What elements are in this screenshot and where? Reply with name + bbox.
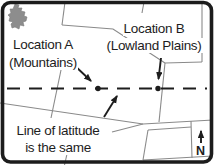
location-b-dot — [155, 86, 160, 91]
boundary-lower-diagonal — [112, 124, 143, 132]
north-label: N — [196, 144, 205, 158]
latitude-note-line1: Line of latitude — [15, 123, 100, 138]
location-a-line1: Location A — [12, 37, 74, 52]
boundary-right-horizontal — [165, 62, 202, 63]
location-b-line2: (Lowland Plains) — [106, 38, 203, 53]
lake-shape — [8, 4, 27, 29]
boundary-top-left-vertical — [62, 2, 65, 25]
boundary-lower-horizontal — [143, 120, 213, 124]
compass-box-divider — [191, 121, 192, 158]
latitude-note-label: Line of latitude is the same — [8, 122, 108, 156]
location-b-line1: Location B — [123, 21, 186, 36]
latitude-note-line2: is the same — [24, 140, 92, 155]
location-a-label: Location A (Mountains) — [1, 36, 85, 72]
latitude-note-arrow-icon — [104, 96, 117, 117]
location-a-dot — [95, 86, 100, 91]
small-state-left — [143, 130, 148, 160]
boundary-lower-curve — [0, 103, 143, 124]
location-a-line2: (Mountains) — [8, 55, 78, 70]
small-state-top — [148, 127, 191, 130]
diagram-canvas: Location A (Mountains) Location B (Lowla… — [0, 0, 214, 166]
location-b-label: Location B (Lowland Plains) — [104, 20, 204, 54]
location-b-arrow-icon — [159, 58, 162, 79]
